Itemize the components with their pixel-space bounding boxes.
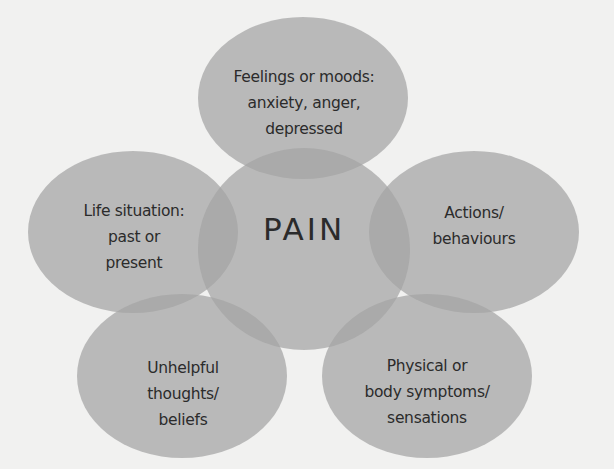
physical-line-2: body symptoms/ xyxy=(364,379,489,405)
pain-cycle-diagram: PAIN Feelings or moods: anxiety, anger, … xyxy=(0,0,614,469)
feelings-line-1: Feelings or moods: xyxy=(233,64,374,90)
feelings-line-3: depressed xyxy=(233,116,374,142)
life-situation-line-3: present xyxy=(83,250,184,276)
thoughts-line-3: beliefs xyxy=(147,407,219,433)
actions-label: Actions/ behaviours xyxy=(433,200,516,252)
actions-line-1: Actions/ xyxy=(433,200,516,226)
physical-line-3: sensations xyxy=(364,405,489,431)
pain-center-label: PAIN xyxy=(263,211,345,247)
life-situation-label: Life situation: past or present xyxy=(83,198,184,276)
thoughts-line-2: thoughts/ xyxy=(147,381,219,407)
physical-label: Physical or body symptoms/ sensations xyxy=(364,353,489,431)
life-situation-line-2: past or xyxy=(83,224,184,250)
actions-line-2: behaviours xyxy=(433,226,516,252)
feelings-label: Feelings or moods: anxiety, anger, depre… xyxy=(233,64,374,142)
feelings-line-2: anxiety, anger, xyxy=(233,90,374,116)
physical-line-1: Physical or xyxy=(364,353,489,379)
thoughts-line-1: Unhelpful xyxy=(147,355,219,381)
pain-center-circle xyxy=(198,148,410,350)
thoughts-label: Unhelpful thoughts/ beliefs xyxy=(147,355,219,433)
life-situation-line-1: Life situation: xyxy=(83,198,184,224)
